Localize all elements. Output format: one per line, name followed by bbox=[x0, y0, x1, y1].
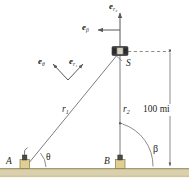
label-satellite-s: S bbox=[126, 59, 131, 69]
label-unit-vector-er2: er₂ bbox=[109, 2, 117, 12]
station-a-icon bbox=[20, 148, 30, 169]
label-station-a: A bbox=[6, 157, 12, 167]
satellite-icon bbox=[112, 47, 128, 56]
label-r1: r1 bbox=[62, 105, 69, 116]
line-of-sight-r1 bbox=[26, 54, 118, 167]
label-unit-vector-ebeta: eβ bbox=[82, 23, 89, 33]
angle-beta-arc bbox=[123, 124, 154, 167]
figure-canvas bbox=[0, 0, 189, 183]
ground-band bbox=[0, 168, 189, 177]
station-b-icon bbox=[116, 155, 126, 169]
label-unit-vector-etheta: eθ bbox=[38, 57, 45, 67]
label-station-b: B bbox=[104, 157, 110, 167]
label-r2: r2 bbox=[123, 105, 130, 116]
label-angle-theta: θ bbox=[46, 153, 51, 163]
unit-vector-pair-leaders bbox=[53, 64, 83, 80]
label-angle-beta: β bbox=[153, 144, 158, 154]
label-unit-vector-er1: er₁ bbox=[69, 57, 77, 67]
satellite-tracking-figure: er₂ eβ eθ er₁ r1 r2 100 mi S A B θ β bbox=[0, 0, 189, 183]
label-altitude: 100 mi bbox=[142, 104, 171, 116]
satellite-label-leader bbox=[116, 56, 122, 62]
